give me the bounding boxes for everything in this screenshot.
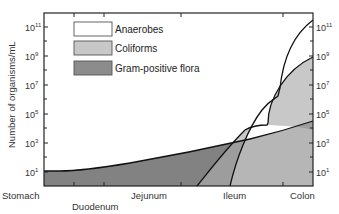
- svg-text:109: 109: [25, 51, 39, 62]
- svg-text:103: 103: [25, 138, 39, 149]
- legend-label-anaerobes: Anaerobes: [115, 24, 163, 35]
- legend-label-gram-positive: Gram-positive flora: [115, 63, 200, 74]
- legend-label-coliforms: Coliforms: [115, 43, 157, 54]
- legend-swatch-coliforms: [74, 41, 112, 55]
- legend-swatch-anaerobes: [74, 22, 112, 36]
- legend-swatch-gram-positive: [74, 61, 112, 75]
- svg-text:1011: 1011: [316, 22, 333, 33]
- x-label-ileum: Ileum: [223, 190, 246, 201]
- svg-text:107: 107: [316, 80, 330, 91]
- y-axis-title: Number of organisms/mL: [6, 41, 17, 148]
- x-label-stomach: Stomach: [2, 190, 40, 201]
- x-label-duodenum: Duodenum: [72, 201, 119, 212]
- svg-text:101: 101: [25, 167, 39, 178]
- x-axis-labels: Stomach Duodenum Jejunum Ileum Colon: [2, 190, 315, 212]
- x-label-jejunum: Jejunum: [131, 190, 167, 201]
- svg-text:105: 105: [316, 109, 330, 120]
- svg-text:107: 107: [25, 80, 39, 91]
- gut-flora-chart: 1011 109 107 105 103 101 1011 109 107 10…: [0, 0, 339, 214]
- svg-text:109: 109: [316, 51, 330, 62]
- right-y-tick-labels: 1011 109 107 105 103 101: [316, 22, 333, 178]
- left-y-tick-labels: 1011 109 107 105 103 101: [25, 22, 42, 178]
- svg-text:103: 103: [316, 138, 330, 149]
- svg-text:1011: 1011: [25, 22, 42, 33]
- svg-text:105: 105: [25, 109, 39, 120]
- legend: Anaerobes Coliforms Gram-positive flora: [74, 22, 200, 75]
- x-label-colon: Colon: [290, 190, 315, 201]
- svg-text:101: 101: [316, 167, 330, 178]
